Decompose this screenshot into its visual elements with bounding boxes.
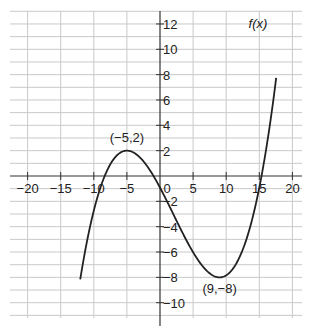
y-tick-label: −4	[163, 220, 178, 235]
y-tick-label: 10	[163, 42, 177, 57]
y-tick-label: −8	[163, 270, 178, 285]
x-tick-label: 20	[285, 181, 299, 196]
x-tick-label: −15	[50, 181, 72, 196]
function-curve	[80, 78, 276, 280]
local-max-label: (−5,2)	[110, 130, 144, 145]
y-tick-label: 8	[163, 68, 170, 83]
y-tick-label: 12	[163, 17, 177, 32]
y-tick-label: 6	[163, 93, 170, 108]
tick-labels: −20−15−10−505101520−10−8−6−4−224681012	[17, 17, 300, 311]
function-graph: −20−15−10−505101520−10−8−6−4−224681012 (…	[0, 0, 310, 329]
annotations: (−5,2)(9,−8)f(x)	[110, 16, 268, 296]
x-tick-label: −20	[17, 181, 39, 196]
y-tick-label: 2	[163, 144, 170, 159]
y-tick-label: −10	[163, 296, 185, 311]
axes	[10, 11, 302, 326]
local-min-label: (9,−8)	[202, 281, 236, 296]
x-tick-label: 5	[189, 181, 196, 196]
grid	[10, 11, 302, 318]
y-tick-label: −6	[163, 245, 178, 260]
x-tick-label: 10	[219, 181, 233, 196]
y-tick-label: 4	[163, 118, 170, 133]
function-name-label: f(x)	[249, 16, 268, 31]
x-tick-label: −5	[119, 181, 134, 196]
